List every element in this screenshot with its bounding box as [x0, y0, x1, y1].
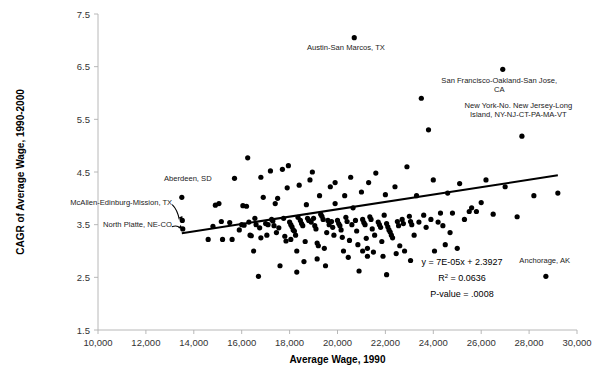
- data-point: [232, 176, 237, 181]
- x-axis-tick-label: 18,000: [275, 337, 304, 348]
- data-point: [342, 193, 347, 198]
- data-point: [474, 209, 479, 214]
- data-point: [179, 195, 184, 200]
- annotations: Austin-San Marcos, TXSan Francisco-Oakla…: [70, 43, 572, 265]
- y-axis-tick-label: 7.5: [77, 9, 90, 20]
- data-point: [317, 193, 322, 198]
- data-point: [354, 228, 359, 233]
- data-point: [311, 216, 316, 221]
- data-point: [265, 222, 270, 227]
- y-axis-tick-label: 2.5: [77, 272, 90, 283]
- data-point: [455, 246, 460, 251]
- data-point: [340, 235, 345, 240]
- data-point: [370, 226, 375, 231]
- data-point: [321, 217, 326, 222]
- data-point: [382, 213, 387, 218]
- data-point: [274, 230, 279, 235]
- data-point: [500, 67, 505, 72]
- data-point: [356, 268, 361, 273]
- data-point: [341, 248, 346, 253]
- data-point: [348, 175, 353, 180]
- data-point: [333, 180, 338, 185]
- data-point: [397, 243, 402, 248]
- data-points: [179, 35, 560, 279]
- annotation-label-san-francisco-line2: CA: [494, 85, 505, 94]
- data-point: [396, 223, 401, 228]
- data-point: [355, 242, 360, 247]
- data-point: [268, 168, 273, 173]
- data-point: [365, 254, 370, 259]
- data-point: [428, 217, 433, 222]
- data-point: [359, 189, 364, 194]
- data-point: [408, 258, 413, 263]
- data-point: [338, 227, 343, 232]
- data-point: [220, 237, 225, 242]
- data-point: [384, 272, 389, 277]
- data-point: [273, 201, 278, 206]
- x-axis-tick-label: 24,000: [419, 337, 448, 348]
- regression-statistics: y = 7E-05x + 2.3927R2 = 0.0636P-value = …: [421, 257, 502, 299]
- x-axis-tick-label: 28,000: [515, 337, 544, 348]
- data-point: [323, 263, 328, 268]
- data-point: [543, 274, 548, 279]
- data-point: [555, 190, 560, 195]
- data-point: [469, 205, 474, 210]
- data-point: [462, 217, 467, 222]
- x-axis-tick-label: 14,000: [179, 337, 208, 348]
- data-point: [244, 204, 249, 209]
- data-point: [431, 177, 436, 182]
- data-point: [258, 175, 263, 180]
- data-point: [419, 96, 424, 101]
- data-point: [333, 201, 338, 206]
- data-point: [316, 243, 321, 248]
- data-point: [491, 212, 496, 217]
- data-point: [329, 219, 334, 224]
- x-axis-tick-label: 16,000: [227, 337, 256, 348]
- data-point: [394, 251, 399, 256]
- annotation-label-san-francisco: San Francisco-Oakland-San Jose,: [441, 76, 557, 85]
- scatter-chart: 1.52.53.54.55.56.57.510,00012,00014,0001…: [0, 0, 601, 375]
- data-point: [503, 184, 508, 189]
- data-point: [307, 177, 312, 182]
- data-point: [303, 239, 308, 244]
- data-point: [322, 246, 327, 251]
- data-point: [443, 242, 448, 247]
- data-point: [390, 235, 395, 240]
- data-point: [276, 225, 281, 230]
- data-point: [304, 202, 309, 207]
- annotation-label-anchorage: Anchorage, AK: [519, 256, 570, 265]
- data-point: [286, 163, 291, 168]
- annotation-leader-line: [172, 205, 179, 220]
- data-point: [283, 238, 288, 243]
- data-point: [310, 169, 315, 174]
- data-point: [352, 35, 357, 40]
- x-axis-tick-label: 30,000: [562, 337, 591, 348]
- data-point: [426, 127, 431, 132]
- data-point: [380, 254, 385, 259]
- data-point: [313, 226, 318, 231]
- y-axis-tick-label: 4.5: [77, 167, 90, 178]
- annotation-label-aberdeen: Aberdeen, SD: [164, 174, 212, 183]
- data-point: [447, 230, 452, 235]
- annotation-label-mcallen: McAllen-Edinburg-Mission, TX: [70, 198, 172, 207]
- data-point: [450, 210, 455, 215]
- data-point: [245, 155, 250, 160]
- data-point: [360, 248, 365, 253]
- data-point: [347, 238, 352, 243]
- data-point: [412, 233, 417, 238]
- data-point: [256, 274, 261, 279]
- data-point: [249, 233, 254, 238]
- data-point: [432, 248, 437, 253]
- annotation-label-new-york-line2: Island, NY-NJ-CT-PA-MA-VT: [470, 110, 567, 119]
- data-point: [219, 219, 224, 224]
- data-point: [483, 177, 488, 182]
- data-point: [344, 219, 349, 224]
- data-point: [457, 181, 462, 186]
- data-point: [407, 214, 412, 219]
- data-point: [368, 217, 373, 222]
- data-point: [379, 239, 384, 244]
- data-point: [421, 213, 426, 218]
- data-point: [372, 233, 377, 238]
- annotation-label-austin: Austin-San Marcos, TX: [307, 43, 385, 52]
- data-point: [328, 184, 333, 189]
